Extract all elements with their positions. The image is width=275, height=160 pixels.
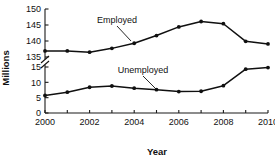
- data-point: [244, 67, 248, 71]
- data-point: [177, 25, 181, 29]
- chart-svg: 135140145150051015 200020022004200620082…: [0, 0, 275, 160]
- y-tick-label: 140: [26, 36, 41, 46]
- x-axis-title: Year: [147, 146, 167, 157]
- series-employed: [43, 20, 270, 55]
- data-point: [199, 20, 203, 24]
- x-tick-label: 2006: [169, 117, 189, 127]
- data-point: [155, 34, 159, 38]
- y-axis-title: Millions: [0, 50, 11, 85]
- data-point: [199, 89, 203, 93]
- y-tick-label: 10: [31, 78, 41, 88]
- y-axis-ticks: [45, 9, 49, 113]
- x-axis-tick-labels: 200020022004200620082010: [35, 117, 275, 127]
- data-point: [132, 41, 136, 45]
- data-series-group: [43, 20, 270, 98]
- data-point: [177, 90, 181, 94]
- y-tick-label: 145: [26, 20, 41, 30]
- x-tick-label: 2002: [80, 117, 100, 127]
- annotation-label-employed: Employed: [97, 15, 137, 25]
- y-tick-label: 5: [36, 93, 41, 103]
- data-point: [266, 66, 270, 70]
- x-tick-label: 2004: [124, 117, 144, 127]
- y-tick-label: 135: [26, 52, 41, 62]
- line-chart: 135140145150051015 200020022004200620082…: [0, 0, 275, 160]
- data-point: [132, 86, 136, 90]
- y-tick-label: 15: [31, 62, 41, 72]
- data-point: [222, 22, 226, 26]
- x-tick-label: 2008: [213, 117, 233, 127]
- data-point: [222, 84, 226, 88]
- y-tick-label: 150: [26, 4, 41, 14]
- data-point: [65, 49, 69, 53]
- data-point: [266, 42, 270, 46]
- y-axis-tick-labels: 135140145150051015: [26, 4, 41, 118]
- annotation-label-unemployed: Unemployed: [118, 65, 169, 75]
- x-tick-label: 2010: [258, 117, 275, 127]
- data-point: [110, 46, 114, 50]
- data-point: [88, 85, 92, 89]
- data-point: [110, 84, 114, 88]
- data-point: [88, 50, 92, 54]
- data-point: [244, 39, 248, 43]
- data-point: [43, 94, 47, 98]
- series-annotations: EmployedUnemployed: [97, 15, 168, 90]
- data-point: [65, 90, 69, 94]
- data-point: [43, 49, 47, 53]
- x-tick-label: 2000: [35, 117, 55, 127]
